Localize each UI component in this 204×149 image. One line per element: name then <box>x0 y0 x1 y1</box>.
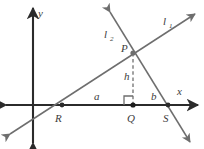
point-label-Q: Q <box>127 112 135 124</box>
point-Q <box>130 102 135 107</box>
point-label-S: S <box>163 112 169 124</box>
segment-label-a: a <box>94 90 100 102</box>
point-R <box>60 103 65 108</box>
line-l2 <box>110 12 190 142</box>
line-label-l1: l 1 <box>163 15 173 30</box>
line-label-l2: l 2 <box>104 28 114 43</box>
line-label-l1-subscript: 1 <box>169 22 173 30</box>
segment-label-h: h <box>124 70 130 82</box>
segment-label-b: b <box>151 90 157 102</box>
line-label-l2-subscript: 2 <box>110 35 114 43</box>
geometry-canvas: y x l 1 l 2 P R Q S a b h <box>0 0 204 149</box>
geometry-figure: y x l 1 l 2 P R Q S a b h <box>0 0 204 149</box>
x-axis-label: x <box>176 85 182 97</box>
y-axis-label: y <box>37 7 43 19</box>
point-label-R: R <box>54 112 62 124</box>
point-label-P: P <box>120 42 128 54</box>
line-label-l2-letter: l <box>104 28 107 40</box>
point-P <box>130 50 135 55</box>
point-S <box>166 103 171 108</box>
line-label-l1-letter: l <box>163 15 166 27</box>
